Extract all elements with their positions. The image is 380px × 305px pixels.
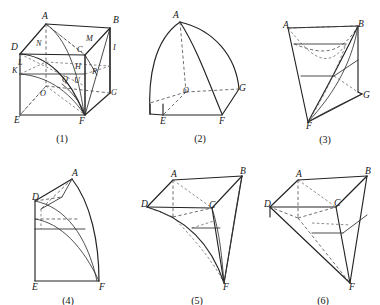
fig1-label-H: H: [74, 62, 82, 71]
fig5-label-B: B: [240, 166, 246, 176]
fig1-label-C: C: [77, 45, 83, 54]
fig1-label-P: P: [91, 67, 97, 76]
fig3-label-A: A: [282, 20, 289, 30]
fig1-label-I: I: [112, 43, 117, 52]
fig1-label-M: M: [85, 34, 94, 43]
fig1-label-O: O: [40, 89, 46, 98]
fig4-label-F: F: [98, 282, 105, 292]
figure-1: A B M D N C I L H K P Q U O G E F (1): [0, 0, 140, 150]
fig5-label-D: D: [140, 199, 148, 209]
fig1-label-N: N: [35, 39, 42, 48]
fig6-label-C: C: [334, 198, 341, 208]
figure-3: A B G F (3): [250, 0, 380, 150]
figure-6: A B D C F (6): [250, 155, 380, 305]
fig2-label-O: O: [183, 86, 189, 95]
fig1-label-Q: Q: [62, 75, 68, 84]
fig5-caption: (5): [191, 295, 203, 305]
figure-2: A O G E F (2): [140, 0, 260, 150]
fig2-label-A: A: [172, 10, 179, 20]
fig3-label-G: G: [363, 90, 370, 100]
fig1-label-D: D: [10, 42, 18, 52]
fig3-label-F: F: [305, 121, 312, 131]
fig5-label-C: C: [209, 200, 216, 210]
fig6-label-A: A: [295, 169, 302, 179]
fig1-caption: (1): [56, 133, 68, 145]
figure-5: A B D C F (5): [130, 155, 255, 305]
fig5-label-F: F: [222, 282, 229, 292]
fig6-caption: (6): [317, 295, 329, 305]
fig6-label-D: D: [263, 199, 271, 209]
fig2-label-E: E: [159, 116, 166, 126]
fig1-label-L: L: [17, 58, 23, 67]
figure-panel: A B M D N C I L H K P Q U O G E F (1) A …: [0, 0, 380, 305]
fig2-label-F: F: [218, 116, 225, 126]
fig1-label-U: U: [74, 76, 81, 85]
fig2-caption: (2): [194, 133, 206, 145]
fig6-label-B: B: [365, 166, 371, 176]
figure-4: A D E F (4): [15, 155, 130, 305]
fig6-label-F: F: [348, 282, 355, 292]
fig1-label-G: G: [111, 88, 117, 97]
fig2-label-G: G: [239, 83, 246, 93]
fig5-label-A: A: [170, 169, 177, 179]
fig1-label-E: E: [13, 115, 20, 125]
fig4-label-A: A: [71, 168, 78, 178]
fig4-label-E: E: [31, 282, 38, 292]
fig1-label-A: A: [41, 11, 48, 21]
fig1-label-F: F: [78, 116, 85, 126]
fig3-caption: (3): [319, 134, 331, 146]
fig1-label-K: K: [11, 66, 18, 75]
fig1-label-B: B: [113, 15, 119, 25]
fig4-label-D: D: [31, 192, 39, 202]
fig4-caption: (4): [62, 295, 74, 305]
fig3-label-B: B: [358, 19, 364, 29]
